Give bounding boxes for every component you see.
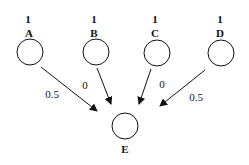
node-b-value: 1 bbox=[91, 13, 97, 25]
node-c bbox=[144, 40, 170, 66]
node-d-value: 1 bbox=[217, 13, 223, 25]
node-e-label: E bbox=[121, 143, 128, 155]
weight-b-e: 0 bbox=[82, 79, 88, 91]
node-b-label: B bbox=[90, 27, 97, 39]
weight-d-e: 0.5 bbox=[189, 91, 203, 103]
node-e bbox=[112, 113, 138, 139]
node-a bbox=[17, 39, 43, 65]
edge-c-e bbox=[139, 69, 151, 104]
edge-b-e bbox=[97, 68, 111, 104]
network-diagram bbox=[0, 0, 249, 165]
node-d-label: D bbox=[216, 27, 224, 39]
node-a-value: 1 bbox=[25, 13, 31, 25]
weight-a-e: 0.5 bbox=[45, 88, 59, 100]
node-c-value: 1 bbox=[152, 13, 158, 25]
node-a-label: A bbox=[25, 27, 33, 39]
node-c-label: C bbox=[151, 27, 159, 39]
node-d bbox=[208, 40, 234, 66]
weight-c-e: 0 bbox=[159, 78, 165, 90]
node-b bbox=[83, 39, 109, 65]
